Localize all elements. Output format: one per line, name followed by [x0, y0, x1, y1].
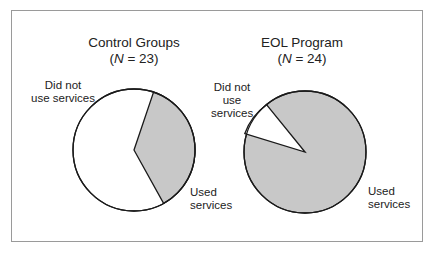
eol-n-label: (N = 24)	[252, 51, 352, 67]
pie-charts	[0, 0, 435, 255]
eol-title: EOL Program (N = 24)	[252, 35, 352, 67]
control-title: Control Groups (N = 23)	[79, 35, 189, 67]
eol-label-not-used: Did not use services	[211, 81, 253, 120]
eol-label-used: Used services	[368, 185, 410, 211]
pie-control-groups	[73, 89, 195, 211]
eol-title-text: EOL Program	[252, 35, 352, 51]
control-label-used: Used services	[190, 186, 232, 212]
control-label-not-used: Did not use services	[30, 79, 96, 105]
pie-eol-program	[244, 91, 366, 213]
control-title-text: Control Groups	[79, 35, 189, 51]
control-n-label: (N = 23)	[79, 51, 189, 67]
